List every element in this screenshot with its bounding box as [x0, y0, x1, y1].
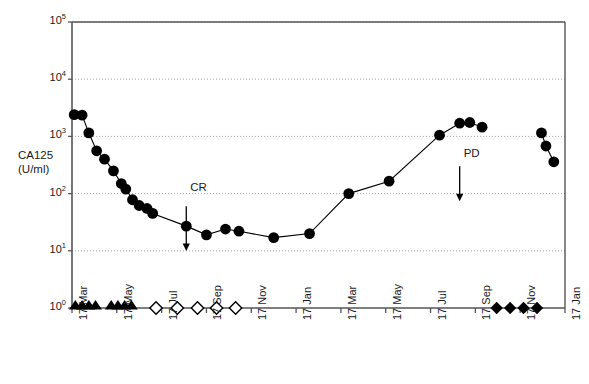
- y-tick-mantissa: 10: [50, 186, 62, 198]
- data-points-group: [69, 109, 559, 243]
- data-point: [201, 229, 212, 240]
- x-tick-label: 17 May: [122, 284, 134, 320]
- data-point: [268, 232, 279, 243]
- treatment-marker-filled-diamond: [504, 302, 516, 314]
- gridlines-group: [72, 22, 565, 251]
- x-tick-label: 17 Jul: [167, 291, 179, 320]
- data-point: [541, 141, 552, 152]
- y-tick-mantissa: 10: [50, 128, 62, 140]
- treatment-marker-open-diamond: [150, 302, 162, 314]
- annotation-arrow-head: [456, 194, 463, 202]
- y-tick-exponent: 1: [62, 241, 66, 250]
- data-point: [220, 224, 231, 235]
- x-tick-label: 17 Nov: [525, 285, 537, 320]
- x-tick-label: 17 Sep: [480, 285, 492, 320]
- y-tick-mantissa: 10: [50, 243, 62, 255]
- annotation-label-cr: CR: [190, 181, 207, 193]
- data-line-group: [74, 115, 554, 238]
- y-tick-mantissa: 10: [50, 71, 62, 83]
- data-point: [384, 176, 395, 187]
- x-tick-label: 17 Jul: [436, 291, 448, 320]
- data-point: [464, 117, 475, 128]
- data-point: [147, 208, 158, 219]
- y-axis-title-line-1: CA125: [18, 148, 53, 162]
- axes-group: [72, 22, 565, 308]
- data-point: [434, 130, 445, 141]
- data-line: [74, 115, 482, 238]
- x-tick-label: 17 Jan: [301, 287, 313, 320]
- data-point: [91, 145, 102, 156]
- y-tick-mantissa: 10: [50, 14, 62, 26]
- y-tick-exponent: 3: [62, 127, 66, 136]
- annotation-label-pd: PD: [464, 147, 480, 159]
- y-tick-label: 100: [30, 300, 66, 312]
- data-point: [77, 110, 88, 121]
- data-point: [454, 118, 465, 129]
- annotation-arrows-group: [183, 166, 464, 251]
- x-tick-label: 17 Jan: [570, 287, 582, 320]
- data-point: [83, 128, 94, 139]
- x-tick-label: 17 May: [391, 284, 403, 320]
- y-tick-mantissa: 10: [50, 300, 62, 312]
- x-tick-label: 17 Nov: [256, 285, 268, 320]
- treatment-marker-open-diamond: [229, 302, 241, 314]
- y-tick-exponent: 4: [62, 70, 66, 79]
- ca125-chart-figure: 100101102103104105 17 Mar17 May17 Jul17 …: [0, 0, 589, 384]
- y-tick-label: 102: [30, 186, 66, 198]
- data-point: [477, 122, 488, 133]
- annotation-arrow-head: [183, 244, 190, 252]
- treatment-marker-open-diamond: [191, 302, 203, 314]
- y-axis-title: CA125 (U/ml): [18, 148, 53, 176]
- y-tick-exponent: 2: [62, 184, 66, 193]
- y-tick-label: 104: [30, 71, 66, 83]
- y-tick-exponent: 0: [62, 298, 66, 307]
- data-point: [536, 128, 547, 139]
- data-point: [234, 226, 245, 237]
- x-tick-label: 17 Mar: [346, 286, 358, 320]
- data-point: [548, 156, 559, 167]
- data-point: [108, 165, 119, 176]
- y-tick-label: 105: [30, 14, 66, 26]
- data-point: [304, 228, 315, 239]
- chart-plot-area: [0, 0, 589, 384]
- y-tick-label: 103: [30, 128, 66, 140]
- x-tick-label: 17 Sep: [211, 285, 223, 320]
- x-tick-label: 17 Mar: [77, 286, 89, 320]
- data-point: [120, 184, 131, 195]
- treatment-marker-filled-diamond: [490, 302, 502, 314]
- y-tick-label: 101: [30, 243, 66, 255]
- data-point: [343, 188, 354, 199]
- y-tick-exponent: 5: [62, 12, 66, 21]
- data-point: [99, 154, 110, 165]
- y-axis-title-line-2: (U/ml): [18, 162, 53, 176]
